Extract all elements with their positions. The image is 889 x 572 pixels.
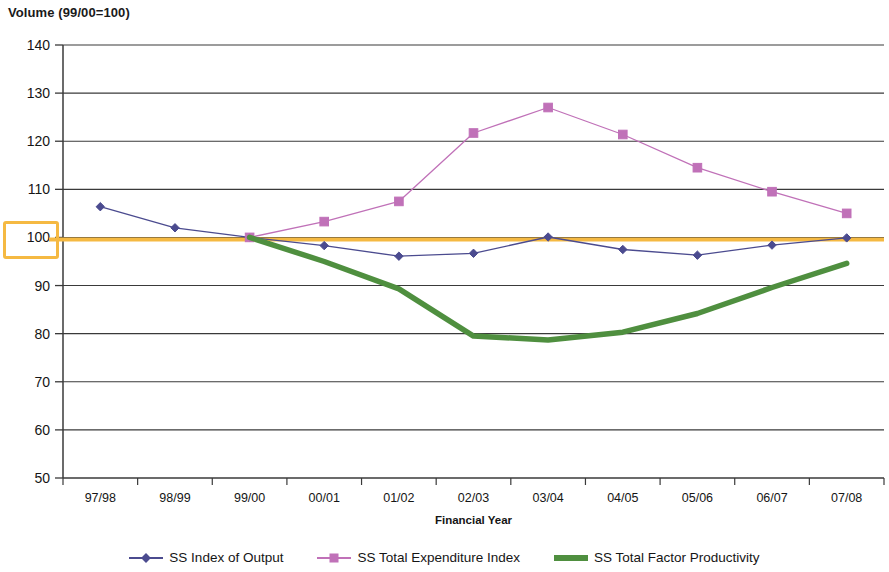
x-axis-label-05-06: 05/06	[682, 491, 713, 505]
data-point-0-3	[320, 241, 328, 249]
x-axis-title: Financial Year	[435, 514, 513, 526]
y-axis-label-120: 120	[27, 133, 51, 149]
data-point-1-1	[320, 217, 329, 226]
x-axis-label-07-08: 07/08	[831, 491, 862, 505]
data-point-0-5	[469, 249, 477, 257]
data-point-0-1	[171, 224, 179, 232]
legend-square-marker-icon-1	[330, 553, 339, 562]
data-point-0-4	[395, 252, 403, 260]
y-axis-label-90: 90	[34, 278, 50, 294]
x-axis-label-97-98: 97/98	[85, 491, 116, 505]
y-axis-label-50: 50	[34, 470, 50, 486]
x-axis-label-01-02: 01/02	[383, 491, 414, 505]
plot-area: 506070809010011012013014097/9898/9999/00…	[0, 0, 889, 540]
y-axis-label-130: 130	[27, 85, 51, 101]
y-axis-label-80: 80	[34, 326, 50, 342]
data-point-1-3	[469, 129, 478, 138]
data-point-0-7	[619, 245, 627, 253]
data-point-1-6	[693, 163, 702, 172]
y-axis-label-110: 110	[28, 181, 51, 197]
x-axis-label-98-99: 98/99	[159, 491, 190, 505]
chart-svg: 506070809010011012013014097/9898/9999/00…	[0, 0, 889, 540]
data-point-1-8	[842, 209, 851, 218]
data-point-1-2	[395, 197, 404, 206]
legend-label-0: SS Index of Output	[169, 550, 283, 565]
x-axis-label-99-00: 99/00	[234, 491, 265, 505]
x-axis-label-00-01: 00/01	[309, 491, 340, 505]
data-point-1-5	[619, 130, 628, 139]
data-point-0-0	[96, 203, 104, 211]
x-axis-label-06-07: 06/07	[756, 491, 787, 505]
legend-swatch-icon-1	[317, 551, 351, 565]
y-axis-label-60: 60	[34, 422, 50, 438]
legend-diamond-marker-icon-0	[141, 553, 151, 563]
chart-legend: SS Index of OutputSS Total Expenditure I…	[0, 543, 889, 572]
data-point-0-8	[693, 251, 701, 259]
y-axis-label-140: 140	[27, 37, 51, 53]
legend-item-0[interactable]: SS Index of Output	[129, 550, 283, 565]
legend-label-2: SS Total Factor Productivity	[594, 550, 760, 565]
legend-item-2[interactable]: SS Total Factor Productivity	[554, 550, 760, 565]
series-line-1	[250, 108, 847, 238]
legend-label-1: SS Total Expenditure Index	[357, 550, 520, 565]
data-point-0-9	[768, 241, 776, 249]
series-line-2	[250, 237, 847, 340]
legend-item-1[interactable]: SS Total Expenditure Index	[317, 550, 520, 565]
legend-line-icon-2	[554, 555, 588, 561]
data-point-1-4	[544, 103, 553, 112]
x-axis-label-02-03: 02/03	[458, 491, 489, 505]
x-axis-label-03-04: 03/04	[532, 491, 563, 505]
y-axis-label-70: 70	[34, 374, 50, 390]
legend-swatch-icon-2	[554, 551, 588, 565]
x-axis-label-04-05: 04/05	[607, 491, 638, 505]
data-point-1-7	[768, 187, 777, 196]
chart-container: Volume (99/00=100) 506070809010011012013…	[0, 0, 889, 572]
y-axis-label-100: 100	[27, 229, 51, 245]
legend-swatch-icon-0	[129, 551, 163, 565]
